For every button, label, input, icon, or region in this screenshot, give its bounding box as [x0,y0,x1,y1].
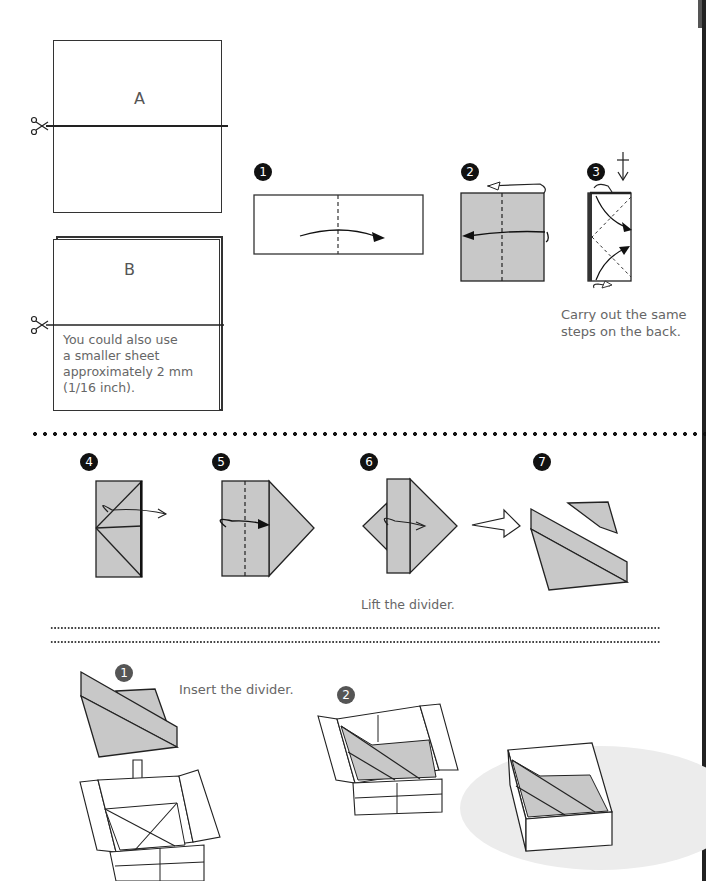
assembly-step-2-diagram [0,0,706,881]
